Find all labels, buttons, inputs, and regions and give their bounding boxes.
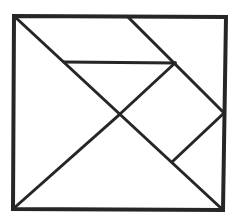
line-horizontal [65,62,175,63]
line-right-diag [172,113,224,162]
tangram-diagram [0,0,234,224]
line-diag-bl-center [13,114,120,209]
tangram-lines [13,16,224,210]
line-mid-diag [120,63,175,114]
line-top-diag [128,17,224,113]
